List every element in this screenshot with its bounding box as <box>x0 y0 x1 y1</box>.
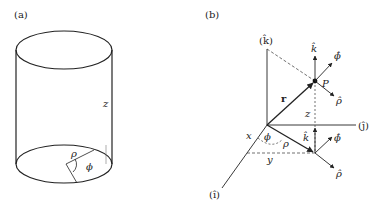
k-axis-label: (k̂) <box>259 34 273 46</box>
phi-label: ϕ <box>86 161 93 172</box>
r-label: r <box>281 93 287 104</box>
rho-label: ρ <box>70 148 77 159</box>
top-rho-hat-label: ρ̂ <box>335 95 342 106</box>
bottom-k-hat-label: k̂ <box>303 131 309 143</box>
phi-angle-arc <box>73 159 77 172</box>
cylindrical-coordinates-diagram: (a) z ρ ϕ (b) (k̂) (ĵ) (î) r P <box>0 0 378 210</box>
cylinder-top-ellipse <box>16 31 112 69</box>
panel-b-label: (b) <box>205 9 219 20</box>
top-k-hat-label: k̂ <box>311 42 317 54</box>
y-label: y <box>266 154 273 165</box>
rho-label: ρ <box>282 138 289 149</box>
panel-a-label: (a) <box>14 9 28 20</box>
reference-radius-line <box>66 164 77 183</box>
x-label: x <box>246 130 252 141</box>
panel-a: (a) z ρ ϕ <box>14 9 112 183</box>
top-phi-hat-label: ϕ̂ <box>334 50 341 61</box>
panel-b: (b) (k̂) (ĵ) (î) r P k̂ ϕ̂ ρ̂ z k̂ ϕ̂ <box>205 9 369 200</box>
phi-label: ϕ <box>264 131 271 142</box>
bottom-phi-hat-label: ϕ̂ <box>334 132 341 143</box>
k-to-P-dashed <box>267 49 315 81</box>
z-label: z <box>102 98 109 109</box>
bottom-rho-hat-label: ρ̂ <box>335 168 342 179</box>
P-label: P <box>321 78 329 89</box>
i-axis <box>222 125 267 188</box>
i-axis-label: (î) <box>209 189 220 200</box>
cylinder-bottom-ellipse <box>16 145 112 183</box>
z-label: z <box>304 108 311 119</box>
j-axis-label: (ĵ) <box>358 120 369 131</box>
bottom-phi-hat-vector <box>315 137 332 153</box>
bottom-rho-hat-vector <box>315 153 334 168</box>
